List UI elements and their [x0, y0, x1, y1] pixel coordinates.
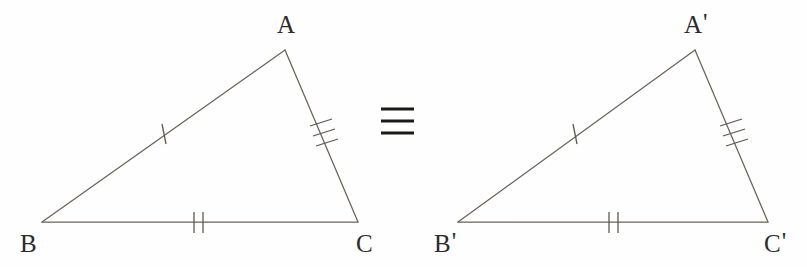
- vertex-label-a-prime-letter: A: [684, 11, 702, 38]
- tick-mark: [310, 119, 332, 126]
- geometry-diagram: A B C: [0, 0, 807, 267]
- prime-mark-icon: ': [452, 228, 457, 255]
- vertex-label-b: B: [20, 230, 37, 257]
- side-a1c1: [695, 50, 768, 222]
- side-ac: [285, 50, 358, 222]
- tick-mark: [573, 124, 577, 144]
- vertex-label-a: A: [277, 11, 295, 38]
- side-a1b1: [458, 50, 695, 222]
- prime-mark-icon: ': [703, 9, 708, 36]
- tick-mark: [720, 119, 742, 126]
- triangle-abc: A B C: [20, 11, 373, 257]
- vertex-label-a-prime: A': [684, 9, 708, 38]
- triangle-a1b1c1: A' B' C': [434, 9, 786, 257]
- congruence-symbol: [381, 109, 414, 133]
- tick-mark: [726, 139, 748, 146]
- tick-mark: [316, 139, 338, 146]
- tick-group-a1b1: [573, 124, 577, 144]
- prime-mark-icon: ': [782, 228, 787, 255]
- tick-mark: [313, 129, 335, 136]
- vertex-label-b-prime-letter: B: [434, 230, 451, 257]
- vertex-label-b-prime: B': [434, 228, 456, 257]
- tick-mark: [723, 129, 745, 136]
- vertex-label-c-prime-letter: C: [764, 230, 781, 257]
- geometry-canvas: A B C: [0, 0, 807, 267]
- side-ab: [42, 50, 285, 222]
- vertex-label-c: C: [356, 230, 373, 257]
- vertex-label-c-prime: C': [764, 228, 786, 257]
